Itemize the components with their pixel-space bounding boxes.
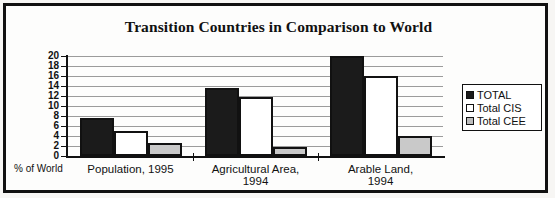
y-axis-tick [61,116,67,117]
y-axis-tick [61,126,67,127]
x-axis-line [66,156,445,158]
axis-caption: % of World [14,163,72,174]
legend-item: Total CEE [466,114,539,127]
y-axis-tick [61,76,67,77]
y-axis-tick [61,86,67,87]
y-axis-tick [61,56,67,57]
category-label-line: Agricultural Area, [193,163,318,175]
bar-cee [148,143,182,156]
y-axis-tick-label: 2 [53,142,59,150]
category-label: Population, 1995 [68,163,193,175]
bar-cee [273,147,307,156]
category-label-line: 1994 [193,175,318,187]
chart-figure: Transition Countries in Comparison to Wo… [0,0,555,198]
gridline [68,56,443,57]
legend-item-label: TOTAL [477,89,511,101]
y-axis-tick-label: 8 [53,112,59,120]
plot-area [68,56,443,156]
y-axis-labels: 20181614121086420 [26,56,59,156]
chart-legend: TOTALTotal CISTotal CEE [462,84,542,131]
bar-total [330,56,364,156]
y-axis-tick [61,146,67,147]
category-label: Arable Land,1994 [318,163,443,187]
category-label-line: 1994 [318,175,443,187]
y-axis-tick-label: 4 [53,132,59,140]
bar-cee [398,136,432,157]
legend-item-label: Total CIS [477,102,522,114]
y-axis-tick-label: 14 [48,82,59,90]
bar-cis [239,97,273,156]
category-separator [193,153,194,161]
y-axis-tick [61,96,67,97]
y-axis-tick-label: 16 [48,72,59,80]
bar-cis [114,131,148,156]
legend-item: TOTAL [466,88,539,101]
y-axis-tick [61,106,67,107]
category-label-line: Population, 1995 [68,163,193,175]
y-axis-tick [61,136,67,137]
legend-swatch-total-cee-icon [466,117,474,125]
y-axis-tick-label: 20 [48,52,59,60]
y-axis-tick-label: 10 [48,102,59,110]
category-label-line: Arable Land, [318,163,443,175]
legend-swatch-total-icon [466,91,474,99]
bar-total [205,88,239,156]
y-axis-tick [61,156,67,157]
y-axis-tick-label: 12 [48,92,59,100]
y-axis-tick [61,66,67,67]
chart-title: Transition Countries in Comparison to Wo… [6,18,551,36]
bar-cis [364,76,398,157]
y-axis-tick-label: 0 [53,152,59,160]
bar-total [80,118,114,156]
legend-swatch-total-cis-icon [466,104,474,112]
legend-item: Total CIS [466,101,539,114]
category-label: Agricultural Area,1994 [193,163,318,187]
gridline [68,66,443,67]
category-separator [318,153,319,161]
chart-frame: Transition Countries in Comparison to Wo… [3,3,548,193]
legend-item-label: Total CEE [477,115,526,127]
y-axis-tick-label: 6 [53,122,59,130]
y-axis-tick-label: 18 [48,62,59,70]
